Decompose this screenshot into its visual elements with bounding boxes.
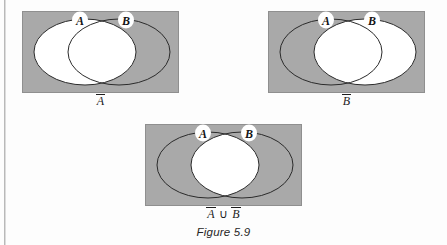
venn-label-a: A [321,14,330,28]
overline-b: B [231,207,241,221]
venn-diagram-a-complement: A B [22,11,179,93]
venn-label-a: A [75,14,84,28]
overline-b: B [342,94,352,108]
venn-diagram-a-complement-union-b-complement: A B [145,124,302,206]
set-label-b-complement: B [268,94,425,109]
venn-label-b: B [244,127,253,141]
venn-diagram-b-complement: A B [268,11,425,93]
venn-svg-a-complement: A B [22,11,179,93]
venn-label-b: B [121,14,130,28]
overline-a: A [206,207,216,221]
overline-a: A [96,94,106,108]
set-label-union: A∪B [145,207,302,222]
set-label-a-complement: A [22,94,179,109]
venn-label-a: A [198,127,207,141]
venn-svg-union: A B [145,124,302,206]
figure-page: A B A A B B [0,0,447,245]
union-operator: ∪ [216,207,231,221]
figure-caption: Figure 5.9 [0,226,447,238]
page-margin-rule-secondary [5,0,6,245]
venn-label-b: B [367,14,376,28]
venn-svg-b-complement: A B [268,11,425,93]
